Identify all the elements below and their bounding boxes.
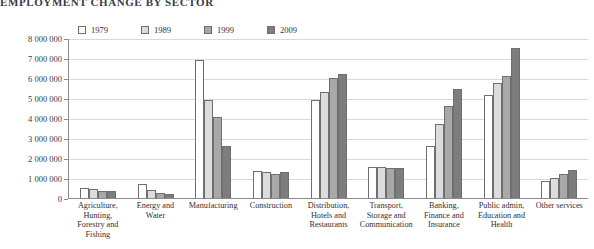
y-axis-tick-label: 1 000 000 <box>28 174 62 184</box>
y-axis-tick-label: 5 000 000 <box>28 94 62 104</box>
bar-group <box>357 39 415 198</box>
chart-title: EMPLOYMENT CHANGE BY SECTOR <box>0 0 214 8</box>
y-axis-tick <box>64 159 68 160</box>
bar[interactable] <box>338 74 347 198</box>
bar-group <box>69 39 127 198</box>
bar[interactable] <box>204 100 213 198</box>
legend-item-1999[interactable]: 1999 <box>204 25 234 35</box>
legend-swatch-icon-1999 <box>204 26 212 34</box>
legend-item-2009[interactable]: 2009 <box>267 25 297 35</box>
legend-swatch-icon-1979 <box>78 26 86 34</box>
bar[interactable] <box>262 172 271 198</box>
y-axis-tick-label: 8 000 000 <box>28 34 62 44</box>
chart-legend: 1979198919992009 <box>78 25 297 35</box>
x-axis-label: Banking, Finance and Insurance <box>415 201 473 239</box>
y-axis-tick <box>64 179 68 180</box>
bar[interactable] <box>386 168 395 198</box>
bar[interactable] <box>156 193 165 198</box>
bar-group <box>473 39 531 198</box>
x-axis-label: Construction <box>242 201 300 239</box>
y-axis-tick <box>64 39 68 40</box>
y-axis-tick-label: 3 000 000 <box>28 134 62 144</box>
bar[interactable] <box>511 48 520 198</box>
y-axis-tick <box>64 79 68 80</box>
bar[interactable] <box>89 189 98 198</box>
x-axis-label: Energy and Water <box>127 201 185 239</box>
y-axis-tick <box>64 199 68 200</box>
bar[interactable] <box>165 194 174 198</box>
plot-area: 8 000 0007 000 0006 000 0005 000 0004 00… <box>68 39 588 199</box>
legend-label: 1979 <box>91 25 108 35</box>
bar[interactable] <box>541 181 550 198</box>
bar-groups-layer <box>69 39 588 198</box>
y-axis-tick <box>64 119 68 120</box>
bar[interactable] <box>213 117 222 198</box>
y-axis-tick-label: 2 000 000 <box>28 154 62 164</box>
bar[interactable] <box>195 60 204 198</box>
x-axis-category-labels: Agriculture, Hunting, Forestry and Fishi… <box>69 201 588 239</box>
bar[interactable] <box>426 146 435 198</box>
x-axis-label: Public admin, Education and Health <box>473 201 531 239</box>
legend-label: 1989 <box>154 25 171 35</box>
legend-item-1979[interactable]: 1979 <box>78 25 108 35</box>
bar[interactable] <box>107 191 116 198</box>
x-axis-line <box>68 198 588 199</box>
bar[interactable] <box>98 191 107 198</box>
bar[interactable] <box>280 172 289 198</box>
y-axis-tick <box>64 139 68 140</box>
legend-item-1989[interactable]: 1989 <box>141 25 171 35</box>
bar[interactable] <box>435 124 444 198</box>
bar[interactable] <box>395 168 404 198</box>
y-axis-tick <box>64 99 68 100</box>
legend-label: 2009 <box>280 25 297 35</box>
bar[interactable] <box>550 178 559 198</box>
legend-swatch-icon-1989 <box>141 26 149 34</box>
bar[interactable] <box>311 100 320 198</box>
bar[interactable] <box>377 167 386 198</box>
y-axis-tick-label: 6 000 000 <box>28 74 62 84</box>
bar-group <box>415 39 473 198</box>
bar[interactable] <box>147 190 156 198</box>
employment-change-bar-chart: EMPLOYMENT CHANGE BY SECTOR 197919891999… <box>0 0 594 249</box>
bar[interactable] <box>484 95 493 198</box>
bar-group <box>127 39 185 198</box>
y-axis-tick-label: 4 000 000 <box>28 114 62 124</box>
bar[interactable] <box>271 174 280 198</box>
bar[interactable] <box>453 89 462 198</box>
legend-label: 1999 <box>217 25 234 35</box>
bar[interactable] <box>444 106 453 198</box>
bar[interactable] <box>329 78 338 198</box>
bar[interactable] <box>80 188 89 198</box>
bar[interactable] <box>568 170 577 198</box>
bar[interactable] <box>222 146 231 198</box>
bar[interactable] <box>559 174 568 198</box>
x-axis-label: Transport, Storage and Communication <box>357 201 415 239</box>
x-axis-label: Manufacturing <box>184 201 242 239</box>
y-axis-tick <box>64 59 68 60</box>
y-axis-tick-label: 7 000 000 <box>28 54 62 64</box>
x-axis-label: Agriculture, Hunting, Forestry and Fishi… <box>69 201 127 239</box>
bar[interactable] <box>138 184 147 198</box>
x-axis-label: Distribution, Hotels and Restaurants <box>300 201 358 239</box>
bar[interactable] <box>368 167 377 198</box>
bar-group <box>184 39 242 198</box>
x-axis-label: Other services <box>530 201 588 239</box>
legend-swatch-icon-2009 <box>267 26 275 34</box>
bar-group <box>300 39 358 198</box>
bar[interactable] <box>502 76 511 198</box>
bar[interactable] <box>253 171 262 198</box>
bar-group <box>530 39 588 198</box>
y-axis-tick-label: 0 <box>58 194 62 204</box>
bar-group <box>242 39 300 198</box>
bar[interactable] <box>493 83 502 198</box>
bar[interactable] <box>320 92 329 198</box>
